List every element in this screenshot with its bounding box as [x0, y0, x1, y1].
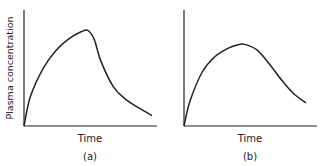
series-line-curve-a	[24, 30, 152, 126]
panel-label: (b)	[243, 151, 257, 162]
x-axis-label: Time	[77, 133, 102, 144]
panel-label: (a)	[83, 151, 97, 162]
y-axis-label: Plasma concentration	[4, 16, 15, 119]
series-line-curve-b	[184, 44, 306, 126]
chart-figure: Time(a)Plasma concentrationTime(b)	[0, 0, 323, 166]
x-axis-label: Time	[237, 133, 262, 144]
